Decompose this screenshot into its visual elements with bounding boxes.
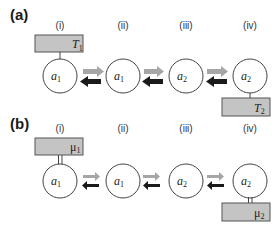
- reservoir-mu1: μ1: [35, 138, 83, 165]
- gray-arrow-right-icon: [144, 66, 164, 77]
- column-label-iii: (iii): [179, 123, 192, 134]
- arrows-a-i-ii: [80, 66, 104, 87]
- node-b-ii: a1: [106, 164, 140, 198]
- reservoir-mu1-sub: 1: [76, 146, 80, 155]
- gray-arrow-right-icon: [83, 172, 100, 181]
- column-label-iv: (iv): [243, 20, 257, 31]
- column-label-iv: (iv): [243, 123, 257, 134]
- node-b-iii: a2: [169, 164, 203, 198]
- reservoir-mu2: μ2: [222, 197, 270, 221]
- gray-arrow-right-icon: [207, 66, 228, 77]
- arrows-b-iii-iv: [207, 172, 224, 190]
- reservoir-t1-sub: 1: [79, 44, 83, 53]
- reservoir-t2-sub: 2: [261, 107, 265, 116]
- node-a-ii: a1: [106, 59, 140, 93]
- panel-b: (b) (i) (ii) (iii) (iv) μ1 a1 a1 a2: [10, 115, 270, 221]
- node-b-i: a1: [43, 164, 77, 198]
- node-a-iv: a2: [233, 59, 267, 93]
- arrows-a-ii-iii: [142, 66, 164, 87]
- panel-label-b: (b): [10, 115, 29, 132]
- column-label-i: (i): [56, 20, 65, 31]
- column-label-iii: (iii): [179, 20, 192, 31]
- gray-arrow-right-icon: [207, 172, 224, 181]
- black-arrow-left-icon: [82, 181, 99, 190]
- gray-arrow-right-icon: [83, 66, 104, 77]
- arrows-a-iii-iv: [206, 66, 228, 87]
- column-label-i: (i): [56, 123, 65, 134]
- arrows-b-ii-iii: [143, 172, 160, 190]
- reservoir-t2: T2: [222, 93, 270, 116]
- node-a-iii: a2: [169, 59, 203, 93]
- panel-label-a: (a): [10, 6, 28, 23]
- column-label-ii: (ii): [117, 20, 128, 31]
- node-a-i: a1: [43, 59, 77, 93]
- gray-arrow-right-icon: [143, 172, 160, 181]
- diagram-canvas: (a) (i) (ii) (iii) (iv) T1 a1 a1 a2 a2: [0, 0, 278, 229]
- black-arrow-left-icon: [206, 76, 227, 87]
- reservoir-mu2-sub: 2: [260, 212, 264, 221]
- column-label-ii: (ii): [117, 123, 128, 134]
- black-arrow-left-icon: [80, 76, 101, 87]
- black-arrow-left-icon: [142, 76, 163, 87]
- panel-a: (a) (i) (ii) (iii) (iv) T1 a1 a1 a2 a2: [10, 6, 270, 116]
- black-arrow-left-icon: [207, 181, 224, 190]
- node-b-iv: a2: [233, 164, 267, 198]
- reservoir-t1: T1: [35, 35, 83, 59]
- arrows-b-i-ii: [82, 172, 100, 190]
- black-arrow-left-icon: [143, 181, 160, 190]
